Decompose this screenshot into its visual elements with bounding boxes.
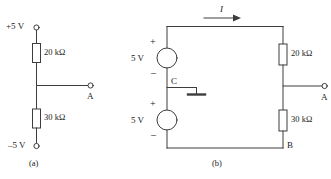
label-resistor-30k-a: 30 kΩ — [44, 113, 65, 122]
label-supply-negative-a: –5 V — [8, 141, 26, 150]
caption-circuit-a: (a) — [29, 159, 38, 168]
label-source-bottom-minus: – — [151, 130, 156, 140]
label-current-i: I — [220, 5, 223, 14]
voltage-source-top — [157, 48, 177, 68]
label-node-a-circuit-b: A — [321, 93, 328, 102]
resistor-20k-b — [279, 44, 287, 65]
label-source-top-value: 5 V — [131, 54, 144, 63]
resistor-30k-b — [279, 110, 287, 131]
label-node-b: B — [287, 141, 293, 150]
figure-canvas: +5 V 20 kΩ A 30 kΩ –5 V (a) I + 5 V – C … — [0, 0, 331, 179]
voltage-source-bottom — [157, 110, 177, 130]
label-resistor-30k-b: 30 kΩ — [291, 115, 312, 124]
label-resistor-20k-b: 20 kΩ — [291, 49, 312, 58]
circuit-drawing — [0, 0, 331, 179]
label-supply-positive-a: +5 V — [6, 22, 24, 31]
terminal-node-a-circuit-b — [322, 83, 327, 88]
terminal-node-a-circuit-a — [88, 83, 93, 88]
label-source-top-minus: – — [151, 68, 156, 78]
resistor-30k-a — [33, 109, 41, 128]
caption-circuit-b: (b) — [212, 159, 222, 168]
terminal-plus5v-a — [34, 25, 39, 30]
current-arrow-head — [233, 15, 241, 22]
label-source-bottom-value: 5 V — [131, 116, 144, 125]
label-node-c: C — [171, 77, 177, 86]
resistor-20k-a — [33, 44, 41, 63]
terminal-minus5v-a — [34, 143, 39, 148]
label-source-top-plus: + — [150, 37, 156, 47]
label-node-a-circuit-a: A — [87, 92, 94, 101]
label-resistor-20k-a: 20 kΩ — [44, 48, 65, 57]
label-source-bottom-plus: + — [150, 99, 156, 109]
